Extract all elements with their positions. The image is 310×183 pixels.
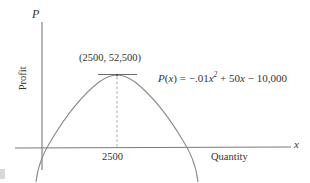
- equation-constant: 10,000: [257, 72, 287, 84]
- equation-equals: =: [177, 72, 189, 84]
- y-axis-symbol-label: P: [32, 8, 39, 20]
- vertex-coordinate-label: (2500, 52,500): [79, 53, 141, 64]
- vertex-point-marker: [116, 74, 118, 76]
- equation-minus-2: −: [245, 72, 257, 84]
- page-edge-artifact: [0, 169, 5, 179]
- function-equation-label: P(x) = −.01x2 + 50x − 10,000: [158, 71, 287, 84]
- plot-canvas: [0, 0, 310, 183]
- equation-coefficient-b: 50: [229, 72, 240, 84]
- parabola-curve: [36, 75, 198, 182]
- y-axis-title-profit: Profit: [18, 53, 29, 103]
- x-tick-label-2500: 2500: [102, 152, 123, 163]
- x-axis-symbol-label: x: [294, 139, 299, 150]
- equation-plus: +: [217, 72, 229, 84]
- x-axis-line: [15, 147, 291, 148]
- equation-coefficient-a: .01: [195, 72, 209, 84]
- profit-parabola-figure: P x Profit Quantity (2500, 52,500) 2500 …: [0, 0, 310, 183]
- equation-p: P: [158, 72, 165, 84]
- x-axis-title-quantity: Quantity: [211, 152, 248, 163]
